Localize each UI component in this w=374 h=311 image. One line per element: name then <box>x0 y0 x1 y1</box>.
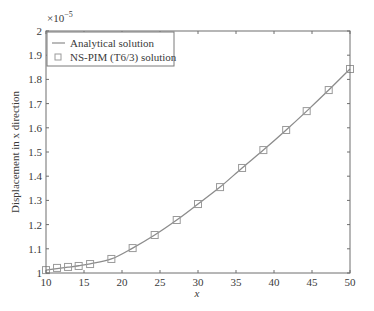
analytical-solution-line <box>46 69 350 270</box>
x-tick-label: 40 <box>269 276 281 288</box>
y-tick-label: 1.1 <box>28 243 42 255</box>
chart: 101520253035404550 11.11.21.31.41.51.61.… <box>0 0 374 311</box>
x-tick-label: 50 <box>345 276 357 288</box>
y-tick-label: 1.9 <box>28 49 42 61</box>
y-tick-label: 1 <box>37 267 43 279</box>
y-tick-label: 2 <box>37 25 43 37</box>
ns-pim-markers <box>43 65 354 273</box>
x-tick-label: 35 <box>231 276 243 288</box>
axes-frame <box>46 31 350 273</box>
x-tick-label: 10 <box>41 276 53 288</box>
legend-label-analytical: Analytical solution <box>70 37 155 49</box>
y-axis-label: Displacement in x direction <box>9 91 21 213</box>
y-tick-label: 1.6 <box>28 122 42 134</box>
y-tick-label: 1.8 <box>28 73 42 85</box>
x-tick-label: 15 <box>79 276 91 288</box>
y-tick-label: 1.3 <box>28 194 42 206</box>
y-tick-label: 1.7 <box>28 98 42 110</box>
x-tick-label: 25 <box>155 276 167 288</box>
y-tick-label: 1.5 <box>28 146 42 158</box>
y-tick-label: 1.2 <box>28 219 42 231</box>
legend-label-ns-pim: NS-PIM (T6/3) solution <box>70 51 177 64</box>
y-exponent-label: ×10−5 <box>47 10 73 24</box>
y-tick-label: 1.4 <box>28 170 42 182</box>
x-axis-ticks: 101520253035404550 <box>41 31 357 288</box>
x-tick-label: 20 <box>117 276 129 288</box>
legend: Analytical solution NS-PIM (T6/3) soluti… <box>47 32 177 66</box>
x-axis-label: x <box>194 287 200 299</box>
x-tick-label: 45 <box>307 276 319 288</box>
